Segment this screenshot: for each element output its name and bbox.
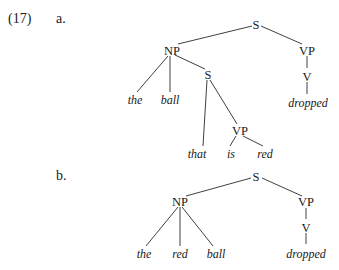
node-s: S — [253, 18, 260, 32]
node-s-rel: S — [205, 68, 212, 82]
edge-np-ball — [182, 207, 213, 246]
tree-b: S NP VP V the red ball dropped — [137, 170, 327, 261]
syntax-trees: S NP VP S V VP the ball dropped that is … — [0, 0, 339, 270]
tree-a: S NP VP S V VP the ball dropped that is … — [128, 18, 329, 161]
word-ball: ball — [207, 247, 226, 261]
node-vp-rel: VP — [232, 124, 248, 138]
edge-s-np — [186, 178, 251, 196]
node-s: S — [253, 170, 260, 184]
word-the: the — [137, 247, 152, 261]
node-v: V — [302, 70, 311, 84]
word-ball: ball — [161, 93, 180, 107]
node-v: V — [301, 221, 310, 235]
edge-s-vp-rel — [210, 80, 237, 124]
edge-s-that — [203, 80, 207, 146]
word-red: red — [257, 147, 274, 161]
word-dropped: dropped — [288, 96, 329, 110]
word-the: the — [128, 93, 143, 107]
word-dropped: dropped — [286, 247, 327, 261]
word-is: is — [227, 147, 235, 161]
edge-np-the — [146, 207, 178, 246]
word-red: red — [172, 247, 189, 261]
node-np: NP — [172, 195, 188, 209]
node-np: NP — [164, 44, 180, 58]
edge-s-vp — [261, 26, 302, 44]
node-vp: VP — [299, 44, 315, 58]
edge-np-the — [137, 56, 168, 92]
edge-s-vp — [262, 178, 302, 196]
word-that: that — [188, 147, 207, 161]
node-vp: VP — [298, 195, 314, 209]
edge-s-np — [178, 26, 252, 44]
